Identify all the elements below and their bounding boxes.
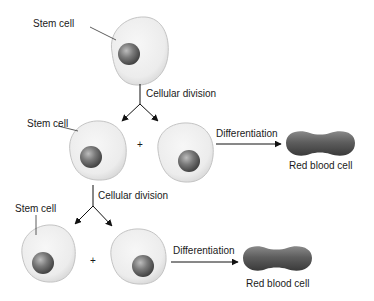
nucleus: [178, 150, 200, 172]
stem-cell-bottom-left: [22, 225, 75, 282]
stem-cell-label-middle: Stem cell: [27, 118, 68, 129]
stem-cell-label-top: Stem cell: [33, 18, 74, 29]
cellular-division-label-1: Cellular division: [146, 88, 216, 99]
nucleus: [118, 43, 140, 65]
nucleus: [132, 255, 154, 277]
stem-cell-middle-left: [70, 121, 127, 180]
red-blood-cell-label-2: Red blood cell: [246, 278, 309, 289]
red-blood-cell-2: [243, 246, 312, 271]
differentiation-label-2: Differentiation: [173, 245, 235, 256]
differentiation-label-1: Differentiation: [216, 128, 278, 139]
nucleus: [32, 252, 54, 274]
stem-cell-pointer: [90, 27, 116, 40]
daughter-cell-middle-right: [158, 123, 213, 182]
plus-sign-middle: +: [137, 139, 143, 150]
red-blood-cell-1: [286, 131, 355, 156]
cellular-division-label-2: Cellular division: [98, 190, 168, 201]
nucleus: [80, 146, 102, 168]
stem-cell-label-bottom: Stem cell: [15, 203, 56, 214]
daughter-cell-bottom-right: [111, 229, 166, 284]
plus-sign-bottom: +: [90, 255, 96, 266]
red-blood-cell-label-1: Red blood cell: [289, 160, 352, 171]
diagram-canvas: Stem cell Cellular division Stem cell + …: [0, 0, 374, 301]
stem-cell-original: [111, 17, 168, 85]
